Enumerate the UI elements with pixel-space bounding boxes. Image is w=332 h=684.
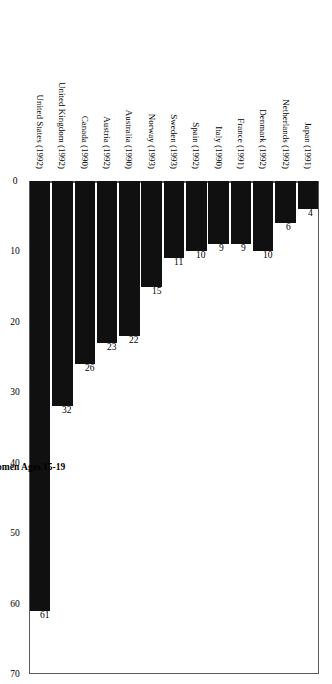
bar-value-label: 10	[263, 250, 273, 260]
category-label: United Kingdom (1992)	[57, 82, 67, 169]
category-label: Japan (1991)	[303, 122, 313, 169]
value-axis-title: Births per 1,000 Women Ages 15-19	[0, 462, 65, 472]
category-label: Italy (1990)	[214, 126, 224, 169]
category-label: Canada (1990)	[80, 116, 90, 169]
category-label: Sweden (1993)	[169, 114, 179, 169]
bar-japan-1991	[298, 181, 319, 209]
rotated-figure-wrapper: 4610991011152223263261 Japan (1991)Nethe…	[0, 0, 332, 684]
bar-france-1991	[231, 181, 252, 244]
bar-united-states-1992	[30, 181, 51, 611]
bar-value-label: 4	[308, 208, 313, 218]
value-axis-tick: 10	[10, 246, 20, 256]
bar-value-label: 6	[286, 222, 291, 232]
bar-netherlands-1992	[275, 181, 296, 223]
bar-united-kingdom-1992	[52, 181, 73, 406]
bar-value-label: 32	[62, 405, 72, 415]
bar-value-label: 23	[107, 342, 117, 352]
category-label: Australia (1990)	[124, 110, 134, 169]
category-label: Netherlands (1992)	[281, 99, 291, 169]
value-axis-tick: 50	[10, 528, 20, 538]
category-label: Austria (1992)	[102, 116, 112, 169]
bar-chart-figure: 4610991011152223263261 Japan (1991)Nethe…	[0, 0, 332, 684]
value-axis-tick: 30	[10, 387, 20, 397]
category-label: France (1991)	[236, 118, 246, 169]
bar-value-label: 9	[219, 243, 224, 253]
bar-value-label: 26	[85, 363, 95, 373]
bar-value-label: 10	[196, 250, 206, 260]
bar-value-label: 11	[174, 257, 183, 267]
value-axis-tick: 70	[10, 669, 20, 679]
bar-canada-1990	[75, 181, 96, 364]
bar-sweden-1993	[164, 181, 185, 258]
bar-denmark-1992	[253, 181, 274, 251]
value-axis-tick: 0	[13, 176, 18, 186]
category-label: Spain (1992)	[191, 122, 201, 169]
bar-australia-1990	[119, 181, 140, 336]
bar-value-label: 9	[241, 243, 246, 253]
category-label: Norway (1993)	[147, 114, 157, 169]
bar-value-label: 22	[129, 335, 139, 345]
value-axis-tick: 60	[10, 599, 20, 609]
bar-italy-1990	[208, 181, 229, 244]
bar-austria-1992	[97, 181, 118, 343]
bar-norway-1993	[141, 181, 162, 287]
value-axis-tick: 20	[10, 317, 20, 327]
bar-spain-1992	[186, 181, 207, 251]
bar-value-label: 61	[40, 610, 50, 620]
category-label: Denmark (1992)	[258, 109, 268, 169]
category-label: United States (1992)	[35, 95, 45, 170]
bar-value-label: 15	[152, 286, 162, 296]
